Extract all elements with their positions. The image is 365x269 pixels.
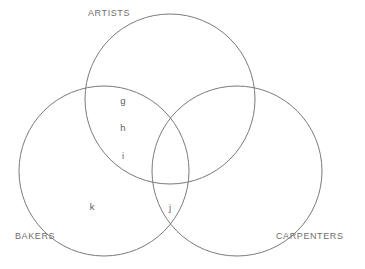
venn-circles-svg bbox=[0, 0, 365, 269]
circle-artists bbox=[85, 14, 255, 184]
region-item: j bbox=[164, 203, 176, 213]
set-label-bakers: BAKERS bbox=[15, 232, 55, 241]
venn-diagram: ARTISTS BAKERS CARPENTERS g h i k j bbox=[0, 0, 365, 269]
region-item: g bbox=[117, 96, 129, 106]
set-label-artists: ARTISTS bbox=[88, 9, 130, 18]
set-label-carpenters: CARPENTERS bbox=[276, 232, 344, 241]
region-item: i bbox=[117, 151, 129, 161]
region-item: k bbox=[86, 202, 98, 212]
region-item: h bbox=[117, 123, 129, 133]
